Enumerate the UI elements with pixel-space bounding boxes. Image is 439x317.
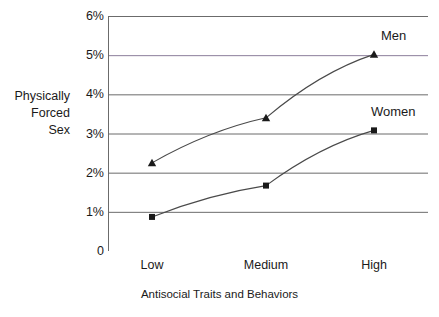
- chart-container: Physically Forced Sex 6% 5% 4% 3% 2% 1% …: [0, 0, 439, 317]
- series-label-women: Women: [371, 105, 416, 119]
- marker-women-medium: [263, 183, 269, 189]
- y-axis-tick-labels: 6% 5% 4% 3% 2% 1% 0: [58, 0, 104, 317]
- series-label-men: Men: [381, 29, 406, 43]
- plot-svg: [108, 16, 428, 251]
- y-tick-label-3: 3%: [64, 128, 104, 140]
- y-tick-label-5: 5%: [64, 49, 104, 61]
- marker-women-high: [371, 127, 377, 133]
- y-tick-label-6: 6%: [64, 10, 104, 22]
- marker-men-high: [370, 50, 378, 58]
- y-tick-label-4: 4%: [64, 88, 104, 100]
- plot-area: [108, 16, 428, 251]
- y-tick-label-2: 2%: [64, 167, 104, 179]
- x-tick-label-high: High: [329, 258, 419, 272]
- y-tick-label-0: 0: [64, 245, 104, 257]
- x-tick-label-medium: Medium: [221, 258, 311, 272]
- x-axis-title: Antisocial Traits and Behaviors: [0, 287, 439, 301]
- marker-women-low: [149, 214, 155, 220]
- y-tick-label-1: 1%: [64, 206, 104, 218]
- x-tick-label-low: Low: [107, 258, 197, 272]
- marker-men-low: [148, 159, 156, 167]
- series-line-men: [152, 54, 374, 162]
